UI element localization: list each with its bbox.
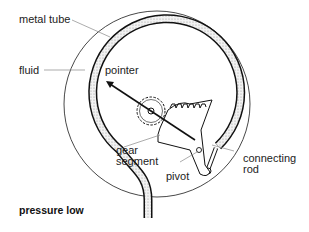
label-pivot: pivot [166, 170, 189, 182]
label-connecting-rod-2: rod [243, 163, 259, 175]
bourdon-gauge-diagram: metal tube fluid pointer gear segment pi… [0, 0, 309, 232]
pivot-point [197, 148, 202, 153]
label-metal-tube: metal tube [19, 13, 70, 25]
label-pointer: pointer [105, 64, 139, 76]
label-fluid: fluid [19, 64, 39, 76]
label-gear-segment-2: segment [116, 155, 158, 167]
gear-segment [158, 100, 212, 176]
diagram-title: pressure low [19, 204, 85, 216]
leader-lines [44, 20, 234, 162]
